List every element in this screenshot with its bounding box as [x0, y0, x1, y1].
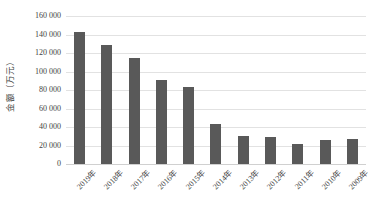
bar[interactable]	[129, 58, 140, 164]
bar[interactable]	[183, 87, 194, 164]
y-axis-tick: 160 000	[35, 12, 61, 20]
x-tick-slot: 2018年	[93, 165, 120, 215]
bar[interactable]	[320, 140, 331, 164]
bar-slot	[257, 16, 284, 164]
x-tick-slot: 2015年	[175, 165, 202, 215]
y-axis-tick: 140 000	[35, 31, 61, 39]
y-axis-tick: 20 000	[39, 142, 61, 150]
bar[interactable]	[292, 144, 303, 164]
y-axis-tick: 120 000	[35, 49, 61, 57]
bar[interactable]	[347, 139, 358, 164]
x-axis-tick: 2009年	[347, 168, 370, 191]
bar[interactable]	[238, 136, 249, 164]
x-tick-slot: 2009年	[339, 165, 366, 215]
y-axis-title: 金额（万元）	[0, 0, 18, 168]
x-tick-slot: 2013年	[230, 165, 257, 215]
bar-slot	[148, 16, 175, 164]
bar[interactable]	[156, 80, 167, 164]
y-axis-tick: 60 000	[39, 105, 61, 113]
y-axis-tick-labels: 160 000140 000120 000100 00080 00060 000…	[18, 16, 64, 164]
bar-slot	[230, 16, 257, 164]
y-axis-title-label: 金额（万元）	[3, 56, 15, 111]
y-axis-tick: 0	[57, 160, 61, 168]
x-axis-tick-labels: 2019年2018年2017年2016年2015年2014年2013年2012年…	[66, 165, 366, 215]
bar-slot	[93, 16, 120, 164]
bar[interactable]	[74, 32, 85, 164]
bar-slot	[175, 16, 202, 164]
bar[interactable]	[101, 45, 112, 164]
y-axis-tick: 80 000	[39, 86, 61, 94]
x-tick-slot: 2014年	[202, 165, 229, 215]
bar-chart: 金额（万元） 160 000140 000120 000100 00080 00…	[0, 0, 388, 216]
bar-slot	[339, 16, 366, 164]
x-tick-slot: 2010年	[311, 165, 338, 215]
bar-slot	[121, 16, 148, 164]
bar[interactable]	[265, 137, 276, 164]
x-tick-slot: 2017年	[121, 165, 148, 215]
bars-layer	[66, 16, 366, 164]
x-tick-slot: 2011年	[284, 165, 311, 215]
x-tick-slot: 2012年	[257, 165, 284, 215]
x-tick-slot: 2019年	[66, 165, 93, 215]
bar-slot	[311, 16, 338, 164]
bar-slot	[202, 16, 229, 164]
bar-slot	[284, 16, 311, 164]
plot-area	[66, 16, 366, 164]
bar[interactable]	[210, 124, 221, 164]
y-axis-tick: 100 000	[35, 68, 61, 76]
bar-slot	[66, 16, 93, 164]
y-axis-tick: 40 000	[39, 123, 61, 131]
x-tick-slot: 2016年	[148, 165, 175, 215]
